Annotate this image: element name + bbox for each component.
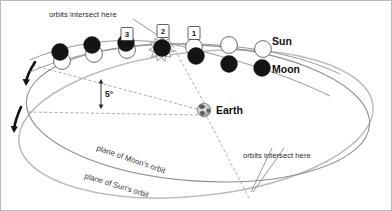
inclination-angle-marker [99, 79, 104, 109]
moon-legend-label: Moon [272, 63, 300, 75]
position-marker-2[interactable]: 2 [157, 25, 169, 38]
sun-legend-label: Sun [272, 35, 292, 47]
direction-arrow-upper [23, 62, 35, 86]
moon-body [188, 48, 205, 65]
moon-body [84, 37, 101, 54]
intersect-bottom-label: orbits intersect here [243, 151, 311, 160]
earth-globe [197, 103, 211, 117]
angle-label: 5° [105, 89, 114, 99]
direction-arrow-lower [11, 107, 21, 133]
position-marker-1-label: 1 [192, 29, 197, 38]
plane-moon-label: plane of Moon's orbit [95, 143, 167, 175]
position-marker-3[interactable]: 3 [121, 28, 133, 41]
sun-body [221, 37, 238, 54]
sun-body [255, 41, 272, 58]
moon-body-node [153, 39, 170, 56]
position-marker-1[interactable]: 1 [188, 27, 200, 40]
diagram-canvas: 5° [0, 0, 392, 211]
position-marker-3-label: 3 [125, 30, 130, 39]
moon-body [221, 56, 238, 73]
moon-body [254, 60, 271, 77]
eclipse-geometry-diagram: 5° [0, 0, 392, 211]
position-marker-2-label: 2 [161, 27, 166, 36]
earth-legend-label: Earth [216, 104, 243, 116]
intersect-top-label: orbits intersect here [49, 10, 117, 19]
moon-body [52, 44, 69, 61]
